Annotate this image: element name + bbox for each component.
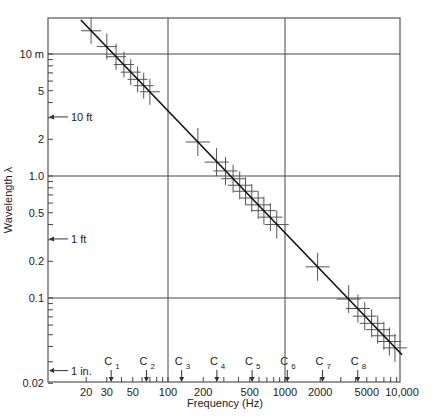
reference-label: 1 in. [71, 365, 92, 377]
note-subscript: 4 [221, 362, 226, 371]
y-tick-label: 0.1 [29, 292, 44, 304]
y-tick-label: 0.5 [29, 207, 44, 219]
fit-line-path [81, 20, 402, 355]
x-tick-label: 30 [101, 386, 113, 398]
note-label: C [175, 355, 183, 367]
note-label: C [139, 355, 147, 367]
y-tick-label: 1.0 [29, 170, 44, 182]
plot-frame [48, 18, 400, 382]
note-markers: C1C2C3C4C5C6C7C8 [104, 355, 367, 382]
note-subscript: 2 [150, 362, 155, 371]
plot-border [48, 18, 400, 382]
note-subscript: 8 [362, 362, 367, 371]
y-tick-label: 0.02 [23, 377, 44, 389]
fit-line [81, 20, 402, 355]
y-tick-label: 5 [38, 85, 44, 97]
x-tick-label: 5000 [355, 386, 379, 398]
note-subscript: 7 [327, 362, 332, 371]
x-tick-label: 1000 [273, 386, 297, 398]
wavelength-frequency-chart: 20305010020050010002000500010,00010 m521… [0, 0, 435, 420]
note-label: C [210, 355, 218, 367]
x-tick-label: 20 [80, 386, 92, 398]
gridlines [48, 18, 400, 382]
x-axis-label: Frequency (Hz) [187, 397, 263, 409]
note-subscript: 3 [186, 362, 191, 371]
y-axis-label: Wavelength λ [2, 166, 14, 233]
x-tick-label: 2000 [308, 386, 332, 398]
note-subscript: 1 [115, 362, 120, 371]
y-tick-label: 2 [38, 133, 44, 145]
note-label: C [351, 355, 359, 367]
note-subscript: 5 [256, 362, 261, 371]
reference-markers: 10 ft1 ft1 in. [49, 111, 92, 377]
note-label: C [104, 355, 112, 367]
y-tick-label: 0.2 [29, 255, 44, 267]
note-subscript: 6 [291, 362, 296, 371]
note-label: C [280, 355, 288, 367]
axis-ticks: 20305010020050010002000500010,00010 m521… [20, 48, 419, 398]
x-tick-label: 10,000 [385, 386, 419, 398]
x-tick-label: 50 [127, 386, 139, 398]
note-label: C [316, 355, 324, 367]
reference-label: 1 ft [71, 233, 86, 245]
reference-label: 10 ft [71, 111, 92, 123]
x-tick-label: 100 [159, 386, 177, 398]
y-tick-label: 10 m [20, 48, 44, 60]
note-label: C [245, 355, 253, 367]
